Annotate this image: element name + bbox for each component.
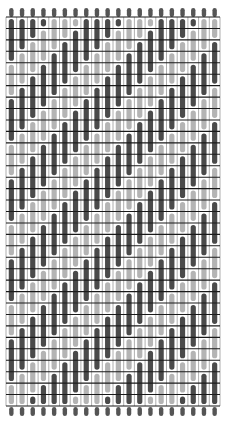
warp-float-light	[105, 202, 110, 232]
warp-float-light	[180, 282, 185, 312]
warp-end-top	[20, 8, 24, 17]
warp-end-top	[180, 8, 184, 17]
warp-float-light	[41, 271, 46, 301]
warp-float-light	[94, 214, 99, 244]
warp-float-light	[105, 42, 110, 72]
warp-float-light	[116, 30, 121, 60]
warp-float-light	[148, 236, 153, 266]
warp-end-top	[159, 8, 163, 17]
warp-end-top	[127, 8, 131, 17]
warp-float-light	[126, 19, 131, 49]
warp-float-light	[180, 362, 185, 392]
warp-float-light	[116, 191, 121, 221]
warp-end-bottom	[148, 407, 152, 416]
warp-float-light	[94, 374, 99, 404]
warp-float-light	[169, 374, 174, 404]
warp-float-light	[84, 145, 89, 175]
warp-end-bottom	[202, 407, 206, 416]
warp-float-light	[62, 328, 67, 358]
warp-end-bottom	[52, 407, 56, 416]
warp-float-light	[9, 65, 14, 95]
warp-float-light	[191, 191, 196, 221]
warp-end-top	[63, 8, 67, 17]
warp-float-light	[9, 145, 14, 175]
warp-float-dark	[94, 19, 99, 49]
warp-float-light	[159, 145, 164, 175]
warp-float-light	[73, 397, 78, 404]
warp-float-light	[191, 271, 196, 301]
warp-float-light	[159, 305, 164, 335]
warp-float-dark	[191, 19, 196, 26]
warp-end-top	[95, 8, 99, 17]
warp-end-bottom	[9, 407, 13, 416]
warp-float-light	[9, 305, 14, 335]
warp-end-bottom	[170, 407, 174, 416]
warp-float-light	[30, 122, 35, 152]
warp-end-top	[52, 8, 56, 17]
warp-float-light	[180, 202, 185, 232]
warp-float-light	[105, 282, 110, 312]
warp-float-light	[126, 179, 131, 209]
warp-float-light	[116, 111, 121, 141]
warp-float-light	[148, 316, 153, 346]
warp-float-light	[148, 19, 153, 26]
warp-end-bottom	[73, 407, 77, 416]
warp-float-light	[30, 202, 35, 232]
warp-end-bottom	[95, 407, 99, 416]
warp-float-light	[73, 156, 78, 186]
warp-end-bottom	[31, 407, 35, 416]
warp-float-light	[52, 179, 57, 209]
warp-float-light	[212, 248, 217, 278]
warp-end-top	[84, 8, 88, 17]
warp-float-light	[169, 214, 174, 244]
warp-float-light	[73, 316, 78, 346]
warp-end-bottom	[20, 407, 24, 416]
warp-float-light	[191, 351, 196, 381]
warp-float-light	[137, 328, 142, 358]
warp-float-light	[148, 156, 153, 186]
warp-float-dark	[180, 397, 185, 404]
warp-float-light	[94, 294, 99, 324]
warp-end-bottom	[41, 407, 45, 416]
warp-float-light	[180, 122, 185, 152]
warp-end-bottom	[159, 407, 163, 416]
warp-float-light	[212, 168, 217, 198]
warp-float-light	[105, 362, 110, 392]
warp-end-top	[212, 8, 216, 17]
warp-float-dark	[52, 374, 57, 404]
warp-end-bottom	[180, 407, 184, 416]
warp-float-light	[201, 339, 206, 369]
warp-end-bottom	[105, 407, 109, 416]
warp-float-light	[41, 351, 46, 381]
warp-float-light	[52, 339, 57, 369]
warp-float-light	[84, 65, 89, 95]
warp-float-dark	[105, 397, 110, 404]
warp-float-light	[169, 53, 174, 83]
warp-end-bottom	[127, 407, 131, 416]
warp-float-light	[19, 53, 24, 83]
warp-float-light	[126, 99, 131, 129]
warp-float-light	[41, 30, 46, 60]
warp-float-light	[94, 53, 99, 83]
warp-float-light	[137, 248, 142, 278]
warp-float-light	[137, 88, 142, 118]
warp-float-light	[201, 259, 206, 289]
warp-float-light	[73, 19, 78, 26]
warp-end-top	[148, 8, 152, 17]
warp-float-light	[180, 42, 185, 72]
warp-float-light	[52, 99, 57, 129]
warp-float-light	[201, 99, 206, 129]
weave-pattern-diagram	[0, 0, 226, 423]
warp-float-light	[126, 339, 131, 369]
warp-float-light	[19, 294, 24, 324]
warp-float-light	[137, 168, 142, 198]
warp-float-dark	[19, 19, 24, 49]
warp-float-light	[30, 282, 35, 312]
warp-end-top	[105, 8, 109, 17]
warp-float-light	[30, 42, 35, 72]
warp-float-dark	[30, 397, 35, 404]
warp-end-bottom	[116, 407, 120, 416]
warp-float-light	[159, 225, 164, 255]
warp-float-light	[19, 214, 24, 244]
warp-float-light	[105, 122, 110, 152]
